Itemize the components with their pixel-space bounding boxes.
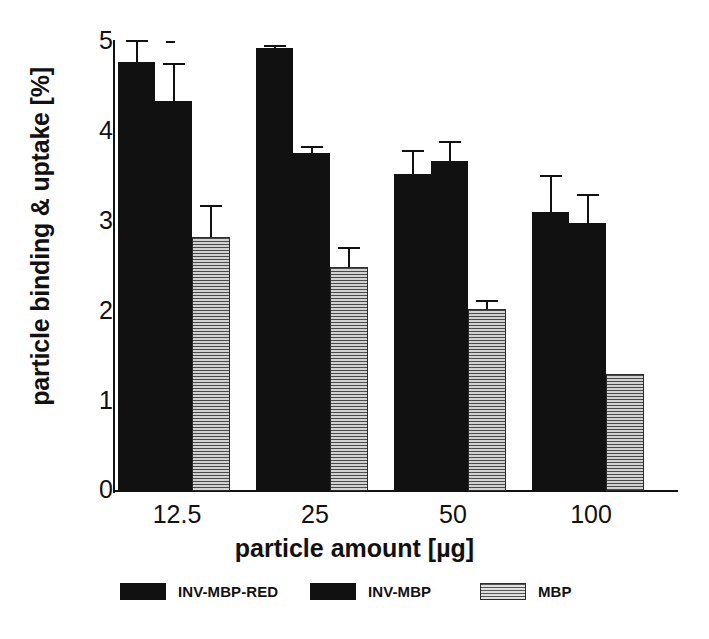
- legend-swatch-icon-mbp: [480, 583, 526, 600]
- y-tick-label-1: 1: [85, 388, 113, 413]
- x-tick-label-50: 50: [394, 500, 512, 529]
- error-cap-inv-mbp-50: [439, 141, 461, 143]
- error-cap-mbp-50: [476, 300, 498, 302]
- y-tick-label-3: 3: [85, 208, 113, 233]
- error-bar-inv-mbp-25: [311, 148, 313, 153]
- bar-mbp-50: [468, 309, 506, 491]
- bar-mbp-100: [606, 374, 644, 491]
- error-cap-mbp-25: [338, 247, 360, 249]
- bar-inv-mbp-100: [569, 223, 606, 492]
- bar-inv-mbp-25: [293, 153, 330, 491]
- error-bar-mbp-50: [486, 302, 488, 308]
- bar-mbp-25: [330, 267, 368, 491]
- legend-swatch-icon-inv-mbp-red: [120, 583, 166, 600]
- bar-inv-mbp-red-50: [394, 174, 431, 491]
- y-tick-label-4: 4: [85, 118, 113, 143]
- y-tick-label-0: 0: [85, 477, 113, 502]
- bar-inv-mbp-12-5: [155, 101, 192, 491]
- error-bar-mbp-25: [348, 249, 350, 268]
- y-tick-label-2: 2: [85, 298, 113, 323]
- bar-inv-mbp-red-100: [532, 212, 569, 491]
- error-cap-inv-mbp-red-100: [540, 175, 562, 177]
- error-cap-inv-mbp-25: [301, 146, 323, 148]
- y-tick-label-5: 5: [85, 28, 113, 53]
- x-axis-title: particle amount [µg]: [0, 534, 709, 563]
- error-bar-inv-mbp-red-12-5: [136, 42, 138, 62]
- error-bar-inv-mbp-100: [587, 196, 589, 222]
- bar-group-12-5: [118, 42, 230, 491]
- error-bar-inv-mbp-12-5: [173, 65, 175, 101]
- legend-label-inv-mbp-red: INV-MBP-RED: [178, 583, 278, 600]
- bar-group-50: [394, 42, 506, 491]
- y-axis-title: particle binding & uptake [%]: [26, 7, 55, 467]
- x-tick-label-12-5: 12.5: [118, 500, 236, 529]
- bar-inv-mbp-red-12-5: [118, 62, 155, 491]
- legend-item-inv-mbp: INV-MBP: [310, 580, 431, 602]
- x-tick-label-100: 100: [532, 500, 650, 529]
- error-cap-mbp-12-5: [200, 205, 222, 207]
- bar-inv-mbp-red-25: [256, 48, 293, 491]
- bar-chart-figure: particle binding & uptake [%] 5 4 3 2 1 …: [0, 0, 709, 639]
- bar-group-100: [532, 42, 644, 491]
- error-cap-inv-mbp-red-25: [264, 45, 286, 47]
- bar-group-25: [256, 42, 368, 491]
- error-bar-inv-mbp-50: [449, 143, 451, 162]
- bar-inv-mbp-50: [431, 161, 468, 491]
- legend-swatch-icon-inv-mbp: [310, 583, 356, 600]
- error-bar-inv-mbp-red-50: [412, 152, 414, 174]
- error-cap-inv-mbp-12-5: [163, 63, 185, 65]
- figure-caption: [18, 624, 698, 638]
- error-bar-inv-mbp-red-100: [550, 177, 552, 212]
- legend-label-inv-mbp: INV-MBP: [368, 583, 431, 600]
- plot-area: [115, 42, 675, 491]
- error-cap-inv-mbp-100: [577, 194, 599, 196]
- legend-label-mbp: MBP: [538, 583, 572, 600]
- error-bar-inv-mbp-red-25: [274, 47, 276, 49]
- error-cap-inv-mbp-red-12-5: [126, 40, 148, 42]
- x-tick-label-25: 25: [256, 500, 374, 529]
- error-cap-inv-mbp-red-50: [402, 150, 424, 152]
- legend-item-mbp: MBP: [480, 580, 572, 602]
- chart-legend: INV-MBP-RED INV-MBP MBP: [0, 580, 709, 606]
- bar-mbp-12-5: [192, 237, 230, 491]
- error-bar-mbp-12-5: [210, 207, 212, 237]
- legend-item-inv-mbp-red: INV-MBP-RED: [120, 580, 278, 602]
